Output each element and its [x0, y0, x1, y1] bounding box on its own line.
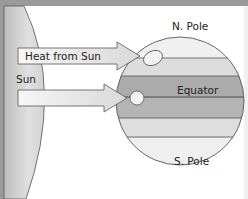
equator-label: Equator: [177, 84, 218, 96]
north-pole-label: N. Pole: [172, 20, 208, 32]
diagram-canvas: [0, 0, 248, 199]
equator-heat-spot: [130, 91, 144, 105]
heat-from-sun-label: Heat from Sun: [25, 50, 101, 62]
sun-label: Sun: [16, 73, 36, 85]
south-pole-label: S. Pole: [174, 155, 209, 167]
